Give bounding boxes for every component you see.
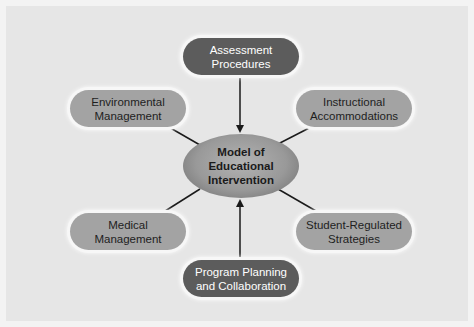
node-environmental-management: Environmental Management [70,90,186,127]
node-program-planning-and-collaboration: Program Planning and Collaboration [183,260,299,297]
node-label-line: Instructional [310,95,398,109]
node-label-line: and Collaboration [195,279,287,293]
center-model-of-educational-intervention: Model of Educational Intervention [183,134,299,198]
node-assessment-procedures: Assessment Procedures [183,38,299,75]
line-student [278,189,316,211]
node-label-line: Procedures [210,57,273,71]
node-medical-management: Medical Management [70,213,186,250]
node-label-line: Environmental [91,95,165,109]
node-label-line: Strategies [306,232,402,246]
node-label-line: Assessment [210,43,273,57]
node-student-regulated-strategies: Student-Regulated Strategies [296,213,412,250]
node-instructional-accommodations: Instructional Accommodations [296,90,412,127]
center-label-line: Intervention [208,173,274,187]
node-label-line: Student-Regulated [306,218,402,232]
line-instructional [278,125,315,144]
node-label-line: Medical [94,218,161,232]
node-label-line: Accommodations [310,109,398,123]
node-label-line: Program Planning [195,265,287,279]
node-label-line: Management [94,232,161,246]
center-label-line: Educational [208,159,274,173]
center-label-line: Model of [208,145,274,159]
node-label-line: Management [91,109,165,123]
line-medical [162,189,200,213]
